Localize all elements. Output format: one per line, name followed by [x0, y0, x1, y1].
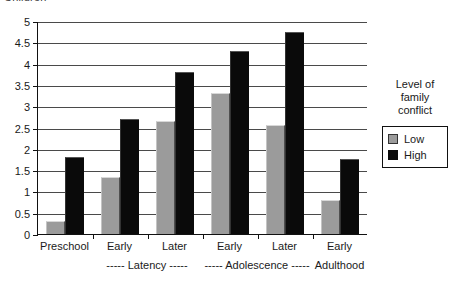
- y-axis-tick-label: 2: [24, 144, 30, 156]
- y-axis-tick-label: 1: [24, 186, 30, 198]
- x-axis-tick: [93, 234, 94, 239]
- bar-high: [65, 157, 84, 234]
- y-axis-tick-label: 1.5: [15, 165, 30, 177]
- bar-group: [38, 22, 93, 234]
- legend-title: Level offamilyconflict: [382, 78, 448, 117]
- legend-item-high: High: [388, 147, 442, 163]
- bar-group: [148, 22, 203, 234]
- bar-high: [340, 159, 359, 234]
- legend-label-low: Low: [404, 133, 424, 145]
- x-axis-tick: [203, 234, 204, 239]
- x-axis-tick: [148, 234, 149, 239]
- x-axis-tick: [313, 234, 314, 239]
- x-axis-label: Early: [107, 240, 132, 252]
- bar-group: [203, 22, 258, 234]
- bar-low: [321, 200, 340, 234]
- y-axis-tick-label: 5: [24, 16, 30, 28]
- y-axis-tick-label: 3: [24, 101, 30, 113]
- bar-low: [156, 121, 175, 234]
- bar-low: [101, 177, 120, 235]
- low-swatch-icon: [388, 134, 398, 144]
- x-axis-stage-label: Adulthood: [315, 259, 365, 271]
- x-axis-label: Early: [217, 240, 242, 252]
- bar-high: [175, 72, 194, 234]
- bar-high: [120, 119, 139, 234]
- bar-high: [285, 32, 304, 234]
- bar-group: [93, 22, 148, 234]
- bar-high: [230, 51, 249, 234]
- legend-box: Low High: [382, 126, 448, 168]
- legend-label-high: High: [404, 149, 427, 161]
- y-axis-tick-label: 2.5: [15, 123, 30, 135]
- high-swatch-icon: [388, 150, 398, 160]
- x-axis-label: Later: [272, 240, 297, 252]
- legend-title-line: family: [382, 91, 448, 104]
- x-axis-stage-label: ----- Adolescence -----: [204, 259, 309, 271]
- x-axis-tick: [258, 234, 259, 239]
- bar-low: [46, 221, 65, 234]
- y-axis-tick-label: 4: [24, 59, 30, 71]
- legend-title-line: Level of: [382, 78, 448, 91]
- y-axis-tick: [33, 235, 38, 236]
- x-axis-label: Early: [327, 240, 352, 252]
- y-axis-tick-label: 4.5: [15, 37, 30, 49]
- bar-group: [313, 22, 368, 234]
- x-axis-label: Later: [162, 240, 187, 252]
- y-axis-tick-label: 0: [24, 229, 30, 241]
- x-axis-label: Preschool: [40, 240, 89, 252]
- chart-legend: Level offamilyconflict Low High: [382, 78, 448, 168]
- bar-low: [211, 93, 230, 234]
- x-axis-stage-label: ----- Latency -----: [106, 259, 187, 271]
- legend-item-low: Low: [388, 131, 442, 147]
- bar-group: [258, 22, 313, 234]
- y-axis-tick-label: 0.5: [15, 208, 30, 220]
- legend-title-line: conflict: [382, 104, 448, 117]
- bar-low: [266, 125, 285, 234]
- y-axis-tick-label: 3.5: [15, 80, 30, 92]
- bar-chart: 54.543.532.521.510.50 Level offamilyconf…: [0, 0, 452, 283]
- plot-area: 54.543.532.521.510.50: [37, 22, 367, 235]
